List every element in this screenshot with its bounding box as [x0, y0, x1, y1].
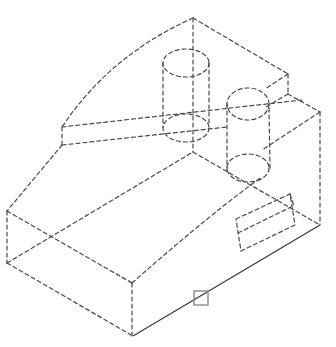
selected-edge[interactable] — [133, 225, 320, 336]
pocket-edge[interactable] — [236, 194, 295, 251]
edge[interactable] — [7, 145, 62, 211]
edge[interactable] — [193, 152, 320, 225]
cad-viewport[interactable] — [0, 0, 336, 347]
cylinder-bottom-ellipse[interactable] — [227, 154, 269, 182]
edge[interactable] — [132, 177, 262, 283]
edge[interactable] — [7, 152, 193, 263]
edge[interactable] — [62, 127, 227, 145]
edge[interactable] — [269, 108, 270, 168]
edge[interactable] — [62, 18, 193, 127]
cylinder-top-ellipse[interactable] — [163, 49, 209, 77]
cylinder-top-ellipse[interactable] — [227, 88, 269, 120]
edge[interactable] — [288, 94, 320, 112]
edge[interactable] — [262, 112, 320, 150]
edge[interactable] — [62, 100, 302, 127]
edge[interactable] — [7, 211, 132, 283]
edge[interactable] — [193, 18, 288, 74]
edge[interactable] — [7, 263, 133, 336]
hidden-edges — [7, 18, 320, 336]
cylinder-bottom-ellipse[interactable] — [163, 114, 209, 142]
edge[interactable] — [265, 74, 288, 89]
pocket-edge[interactable] — [238, 207, 291, 233]
